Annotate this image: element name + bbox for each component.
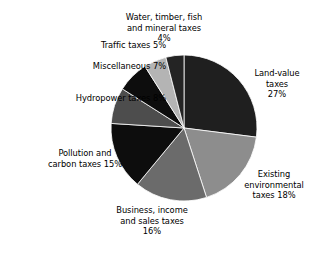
slice-label-miscellaneous: Miscellaneous 7% <box>38 61 166 72</box>
pie-chart-figure: Water, timber, fish and mineral taxes 4%… <box>0 0 324 261</box>
slice-label-hydropower-taxes: Hydropower taxes 8% <box>6 93 166 104</box>
slice-label-land-value-taxes: Land-value taxes 27% <box>234 68 320 100</box>
slice-label-business-income-sales-taxes: Business, income and sales taxes 16% <box>88 205 216 237</box>
slice-label-pollution-carbon-taxes: Pollution and carbon taxes 15% <box>22 148 148 169</box>
slice-label-water-timber-fish-mineral-taxes: Water, timber, fish and mineral taxes 4% <box>105 12 223 44</box>
slice-label-traffic-taxes: Traffic taxes 5% <box>56 40 166 51</box>
slice-label-existing-environmental-taxes: Existing environmental taxes 18% <box>228 169 320 201</box>
